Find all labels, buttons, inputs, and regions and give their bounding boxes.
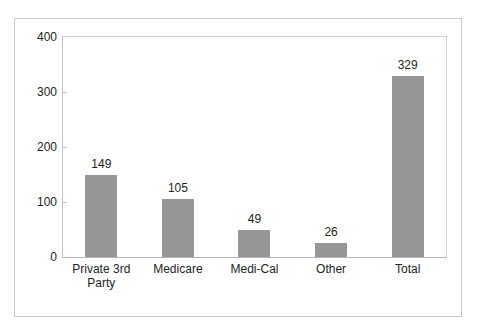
x-axis-category-label-line: Other — [293, 262, 370, 276]
x-axis-category-label-line: Medicare — [140, 262, 217, 276]
y-axis-tick-label: 200 — [19, 141, 57, 153]
bar-group: 49 — [216, 37, 293, 257]
bar-group: 329 — [369, 37, 446, 257]
y-axis-tick-label: 0 — [19, 251, 57, 263]
x-axis-category-label: Private 3rdParty — [63, 262, 140, 290]
chart-figure-frame: 0100200300400 1491054926329 Private 3rdP… — [14, 18, 462, 317]
bar-group: 26 — [293, 37, 370, 257]
x-axis-category-label: Medi-Cal — [216, 262, 293, 276]
bar-value-label: 149 — [91, 158, 111, 170]
bar-value-label: 105 — [168, 182, 188, 194]
clipped-header-text — [0, 0, 479, 3]
bar-other — [315, 243, 347, 257]
bar-group: 149 — [63, 37, 140, 257]
bar-value-label: 26 — [324, 226, 337, 238]
bar-value-label: 329 — [398, 59, 418, 71]
x-axis-category-label-line: Medi-Cal — [216, 262, 293, 276]
x-axis-category-label-line: Total — [369, 262, 446, 276]
y-axis-tick-label: 400 — [19, 31, 57, 43]
bar-value-label: 49 — [248, 213, 261, 225]
chart-canvas: 0100200300400 1491054926329 Private 3rdP… — [15, 19, 461, 316]
bar-private-3rd-party — [85, 175, 117, 257]
x-axis-line — [62, 257, 447, 258]
y-axis-tick-label: 300 — [19, 86, 57, 98]
x-axis-category-label-line: Party — [63, 276, 140, 290]
bars-layer: 1491054926329 — [63, 37, 446, 257]
x-axis-category-label: Total — [369, 262, 446, 276]
bar-medi-cal — [238, 230, 270, 257]
x-axis-category-label: Other — [293, 262, 370, 276]
x-axis-category-label: Medicare — [140, 262, 217, 276]
bar-total — [392, 76, 424, 257]
bar-medicare — [162, 199, 194, 257]
bar-group: 105 — [140, 37, 217, 257]
x-axis-categories: Private 3rdPartyMedicareMedi-CalOtherTot… — [63, 262, 446, 302]
y-axis-tick-label: 100 — [19, 196, 57, 208]
x-axis-category-label-line: Private 3rd — [63, 262, 140, 276]
